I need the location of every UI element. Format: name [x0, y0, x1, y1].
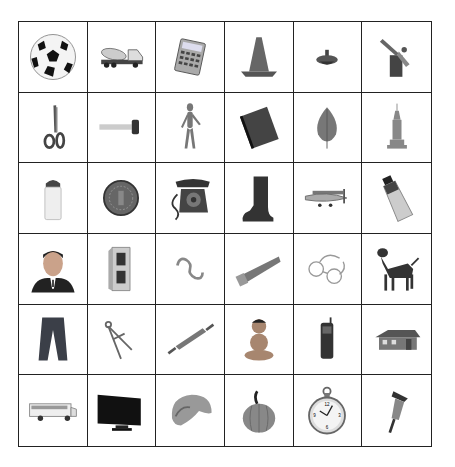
- spinning-top-icon: [300, 30, 354, 84]
- cell-cinder-block[interactable]: cinder block: [88, 234, 157, 305]
- soccer-ball-icon: [26, 30, 80, 84]
- cell-soccer-ball[interactable]: soccer ball: [19, 22, 88, 93]
- cell-spinning-top[interactable]: spinning top: [294, 22, 363, 93]
- cement-truck-icon: [94, 30, 148, 84]
- cell-leaf[interactable]: leaf: [294, 93, 363, 164]
- cell-jeans[interactable]: jeans: [19, 305, 88, 376]
- cell-man-portrait[interactable]: man: [19, 234, 88, 305]
- picture-grid: soccer ball cement mixer truck calculato…: [18, 21, 432, 447]
- man-portrait-icon: [26, 242, 80, 296]
- cell-nautilus-shell[interactable]: nautilus shell: [156, 375, 225, 446]
- cell-pocket-watch[interactable]: 12369 pocket watch: [294, 375, 363, 446]
- eyeglasses-icon: [300, 242, 354, 296]
- pumpkin-icon: [232, 384, 286, 438]
- cell-boot[interactable]: boot: [225, 163, 294, 234]
- cinder-block-icon: [94, 242, 148, 296]
- boot-icon: [232, 171, 286, 225]
- baby-icon: [232, 312, 286, 366]
- scissors-icon: [26, 100, 80, 154]
- house-icon: [370, 312, 424, 366]
- shell-icon: [163, 384, 217, 438]
- airplane-icon: [300, 171, 354, 225]
- cell-mannequin[interactable]: wooden mannequin: [156, 93, 225, 164]
- saw-icon: [232, 242, 286, 296]
- jackhammer-icon: [370, 384, 424, 438]
- cell-cement-truck[interactable]: cement mixer truck: [88, 22, 157, 93]
- cell-rolling-pin[interactable]: rolling pin: [156, 305, 225, 376]
- cell-blowtorch[interactable]: blowtorch: [362, 22, 431, 93]
- cell-baby[interactable]: baby: [225, 305, 294, 376]
- drafting-compass-icon: [94, 312, 148, 366]
- cell-paint-tube[interactable]: paint tube: [362, 163, 431, 234]
- brush-icon: [94, 100, 148, 154]
- notebook-icon: [232, 100, 286, 154]
- blowtorch-icon: [370, 30, 424, 84]
- dog-icon: [370, 242, 424, 296]
- telephone-icon: [163, 171, 217, 225]
- cell-drafting-compass[interactable]: compass: [88, 305, 157, 376]
- cell-scissors[interactable]: scissors: [19, 93, 88, 164]
- cell-television[interactable]: television: [88, 375, 157, 446]
- mannequin-icon: [163, 100, 217, 154]
- jeans-icon: [26, 312, 80, 366]
- cell-notebook[interactable]: notebook: [225, 93, 294, 164]
- cell-telephone[interactable]: rotary telephone: [156, 163, 225, 234]
- cell-calculator[interactable]: calculator: [156, 22, 225, 93]
- cell-pumpkin[interactable]: pumpkin: [225, 375, 294, 446]
- cell-dog[interactable]: dog: [362, 234, 431, 305]
- school-bus-icon: [26, 384, 80, 438]
- salt-shaker-icon: [26, 171, 80, 225]
- rolling-pin-icon: [163, 312, 217, 366]
- cell-eyeglasses[interactable]: eyeglasses: [294, 234, 363, 305]
- leaf-icon: [300, 100, 354, 154]
- pocket-watch-icon: 12369: [300, 384, 354, 438]
- cell-s-hook[interactable]: S hook: [156, 234, 225, 305]
- cell-airplane[interactable]: airplane: [294, 163, 363, 234]
- cell-brush[interactable]: test tube brush: [88, 93, 157, 164]
- cell-school-bus[interactable]: school bus: [19, 375, 88, 446]
- cell-cell-phone[interactable]: cell phone: [294, 305, 363, 376]
- television-icon: [94, 384, 148, 438]
- cell-skyscraper[interactable]: skyscraper: [362, 93, 431, 164]
- svg-text:12: 12: [325, 401, 331, 406]
- cell-salt-shaker[interactable]: salt shaker: [19, 163, 88, 234]
- coin-icon: [94, 171, 148, 225]
- skyscraper-icon: [370, 100, 424, 154]
- traffic-cone-icon: [232, 30, 286, 84]
- calculator-icon: [163, 30, 217, 84]
- cell-coin[interactable]: coin: [88, 163, 157, 234]
- cell-traffic-cone[interactable]: traffic cone: [225, 22, 294, 93]
- cell-house[interactable]: house: [362, 305, 431, 376]
- cell-jackhammer[interactable]: jackhammer: [362, 375, 431, 446]
- cell-phone-icon: [300, 312, 354, 366]
- paint-tube-icon: [370, 171, 424, 225]
- s-hook-icon: [163, 242, 217, 296]
- cell-saw[interactable]: saw: [225, 234, 294, 305]
